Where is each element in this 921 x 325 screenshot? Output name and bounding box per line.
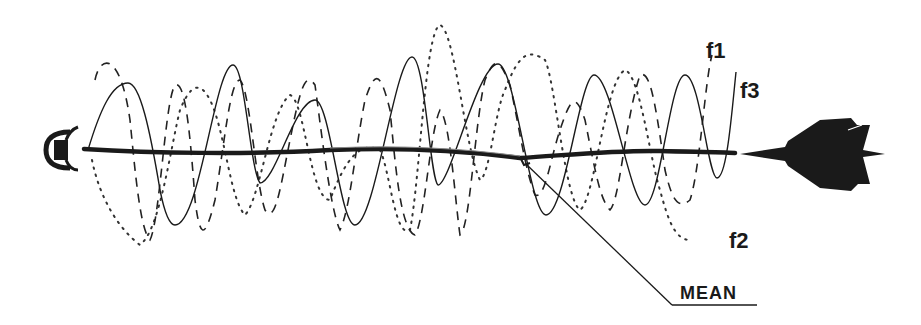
jet-aircraft-icon: [740, 118, 885, 191]
f2-wave: [92, 25, 690, 245]
f3-wave: [88, 57, 736, 225]
f2-label: f2: [729, 228, 749, 254]
f1-label: f1: [706, 38, 726, 64]
mean-label: MEAN: [680, 283, 737, 304]
f3-label: f3: [740, 78, 760, 104]
diagram-canvas: [0, 0, 921, 325]
mean-line: [84, 149, 735, 158]
radar-dish-icon: [46, 127, 78, 170]
wave-diagram: f1 f3 f2 MEAN: [0, 0, 921, 325]
